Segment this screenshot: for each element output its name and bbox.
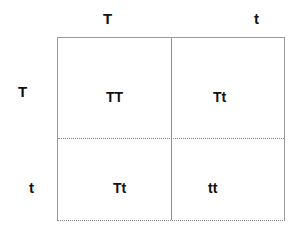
punnett-grid: TT Tt Tt tt	[57, 37, 285, 221]
horizontal-divider	[58, 138, 284, 139]
vertical-divider	[171, 38, 172, 220]
cell-tt: tt	[208, 181, 217, 195]
row-header-1: T	[18, 84, 27, 99]
column-header-1: T	[103, 11, 112, 26]
column-header-2: t	[254, 11, 259, 26]
cell-Tt-bottom: Tt	[113, 181, 126, 195]
cell-TT: TT	[106, 90, 123, 104]
row-header-2: t	[29, 180, 34, 195]
cell-Tt-top: Tt	[213, 90, 226, 104]
